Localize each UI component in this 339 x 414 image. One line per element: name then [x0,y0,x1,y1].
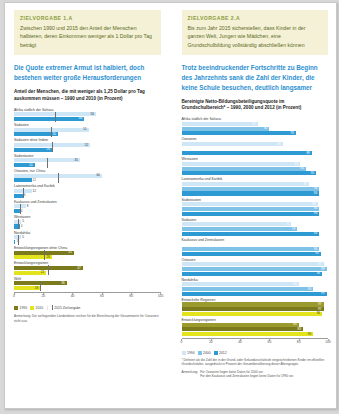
chart-group: Westasien818592 [182,157,329,175]
legend-item[interactable]: 2010 [30,306,43,310]
bar [182,312,323,316]
bar-value: 41 [69,250,72,255]
legend-item[interactable]: 1990 [14,306,27,310]
bar-value: 79 [292,227,295,232]
chart-note-right: Anmerkung: Für Ozeanien liegen keine Dat… [182,370,329,379]
bar-row: 60 [182,127,329,131]
bar-row: 56 [14,112,161,116]
bar [182,252,321,256]
panel-goal-1a: ZIELVORGABE 1.A Zwischen 1990 und 2015 d… [5,3,171,408]
legend-item-target[interactable]: 2015 Zielvorgabe [52,305,81,310]
chart-group-bars: 4514 [14,158,161,167]
chart-axis: 020406080100 [14,292,161,302]
headline-left: Die Quote extremer Armut ist halbiert, d… [14,63,161,83]
bar [182,232,320,236]
chart-group-bars: 126 [14,189,161,198]
bar-value: 90 [308,332,311,337]
axis-tick-label: 40 [238,340,242,344]
bar-value: 81 [295,162,298,167]
bar [182,287,314,291]
bar-row: 78 [182,131,329,135]
target-marker [52,142,53,152]
target-marker [18,219,19,229]
chart-group: Südostasien4514 [14,154,161,167]
headline-right: Trotz beeindruckender Fortschritte zu Be… [182,63,329,92]
axis-tick-label: 60 [268,340,272,344]
legend-label: 1990 [187,351,195,355]
bar-value: 47 [77,266,80,271]
chart-group-label: Südasien [182,218,329,222]
legend-swatch [198,351,202,355]
chart-group-bars: 526078 [182,122,329,135]
bar-row: 5 [14,220,161,224]
bar-value: 5 [22,235,24,240]
chart-group-label: Südostasien [182,198,329,202]
bar [182,272,323,276]
target-marker [40,281,41,291]
bar-row: 97 [182,302,329,306]
chart-group-bars: 4126 [14,251,161,260]
legend-label: 1990 [20,306,28,310]
legend-item[interactable]: 1990 [182,351,195,355]
bar-value: 56 [91,112,94,117]
legend-item[interactable]: 2012 [214,351,227,355]
bar-value: 48 [79,116,82,121]
bar-row: 99 [182,292,329,296]
legend-label: 2000 [203,351,211,355]
bar-row: 75 [182,222,329,226]
bar [182,267,327,271]
chart-group-label: Afrika südlich der Sahara [14,108,161,112]
chart-group-bars: 939494 [182,202,329,215]
legend-swatch [182,351,186,355]
bar-value: 80 [293,322,296,327]
bar-row: 45 [14,158,161,162]
chart-legend: 19902010|2015 Zielvorgabe [14,305,161,310]
axis-tick: 100 [325,339,331,344]
chart-group-label: Südostasien [14,154,161,158]
bar-value: 52 [252,122,255,127]
target-marker [55,112,56,122]
chart-legend: 199020002012 [182,351,329,355]
bar-row: 79 [182,227,329,231]
axis-tick-label: 0 [181,340,183,344]
bar-row: 18 [14,286,161,290]
bar-row: 8 [14,204,161,208]
bar-row: 52 [14,143,161,147]
bar-row: 5 [14,235,161,239]
bar [182,167,307,171]
bar-row: 30 [14,132,161,136]
bar-value: 94 [314,191,317,196]
target-marker [51,127,52,137]
bar-value: 94 [314,231,317,236]
chart-group-bars: 6012 [14,174,161,183]
chart-group-bars: 5226 [14,143,161,152]
chart-group: Kaukasus und Zentralasien9495 [182,238,329,256]
chart-group: Entwicklungsregionen808390 [182,318,329,336]
chart-group-label: Nordafrika [182,278,329,282]
bar [182,222,292,226]
bar-value: 6 [24,193,26,198]
chart-group: Welt3618 [14,277,161,290]
axis-tick: 80 [129,293,133,298]
axis-tick-label: 40 [71,294,75,298]
note-label-right: Anmerkung: [182,370,199,374]
bar-row: 94 [182,207,329,211]
chart-group-bars: 757994 [182,222,329,235]
chart-group-bars: 6989 [182,142,329,155]
chart-group-bars: 5648 [14,112,161,121]
goal-kicker-left: ZIELVORGABE 1.A [20,15,155,21]
subhead-left: Anteil der Menschen, die mit weniger als… [14,89,161,103]
bar-row: 92 [182,171,329,175]
chart-group-label: Entwickelte Regionen [182,298,329,302]
axis-tick: 60 [100,293,104,298]
bar-row: 94 [182,187,329,191]
legend-target-label: 2015 Zielvorgabe [54,306,80,310]
chart-group: Lateinamerika und Karibik879494 [182,177,329,195]
chart-group: Südasien5130 [14,123,161,136]
legend-item[interactable]: 2000 [198,351,211,355]
bar-row: 94 [182,212,329,216]
bar [182,282,299,286]
chart-group-label: Entwicklungsregionen ohne China [14,246,161,250]
chart-group: Entwicklungsregionen ohne China4126 [14,246,161,259]
bar-row: 22 [14,271,161,275]
